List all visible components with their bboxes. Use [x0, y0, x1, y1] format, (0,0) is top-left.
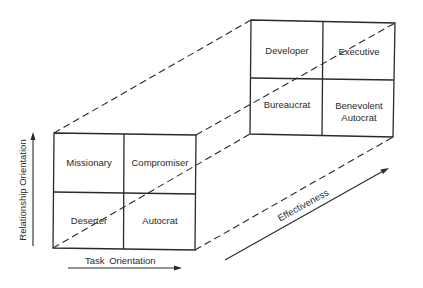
edge-top-left [54, 20, 251, 133]
cell-autocrat: Autocrat [124, 215, 196, 227]
relationship-orientation-arrow [31, 132, 36, 246]
relationship-orientation-label: Relationship Orientation [17, 139, 28, 240]
cell-executive: Executive [323, 46, 395, 58]
cell-missionary: Missionary [54, 157, 124, 169]
cell-benevolent-autocrat: Benevolent Autocrat [323, 100, 395, 124]
diagram-canvas [0, 0, 423, 288]
cell-bureaucrat: Bureaucrat [251, 99, 323, 111]
edge-bottom-right [195, 137, 393, 250]
cell-developer: Developer [251, 45, 323, 57]
cell-compromiser: Compromiser [124, 157, 196, 169]
cell-benevolent-autocrat-line2: Autocrat [323, 112, 395, 124]
cell-deserter: Deserter [54, 215, 124, 227]
effectiveness-arrow [225, 168, 389, 260]
front-grid-box [53, 133, 196, 250]
task-orientation-arrow [68, 266, 182, 271]
task-orientation-label: Task Orientation [85, 255, 156, 266]
cell-benevolent-autocrat-line1: Benevolent [323, 100, 395, 112]
